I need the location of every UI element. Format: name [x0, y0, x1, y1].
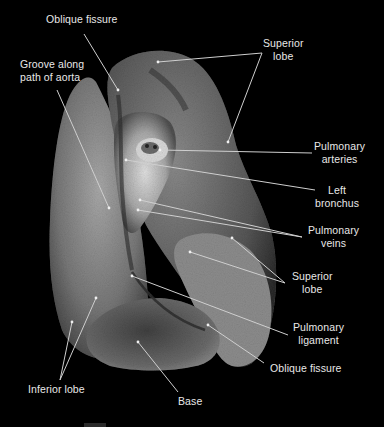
- anatomy-figure: Oblique fissure Groove along path of aor…: [0, 0, 384, 427]
- label-pulmonary-arteries: Pulmonary arteries: [314, 140, 365, 165]
- label-groove-along-aorta: Groove along path of aorta: [20, 58, 84, 83]
- label-pulmonary-veins: Pulmonary veins: [308, 224, 359, 249]
- label-left-bronchus: Left bronchus: [315, 184, 359, 209]
- label-inferior-lobe: Inferior lobe: [28, 383, 85, 396]
- label-superior-lobe-bottom: Superior lobe: [292, 270, 333, 295]
- label-pulmonary-ligament: Pulmonary ligament: [293, 321, 344, 346]
- cropped-caption-fragment: [84, 423, 106, 427]
- label-oblique-fissure-bottom: Oblique fissure: [270, 362, 342, 375]
- label-superior-lobe-top: Superior lobe: [263, 37, 304, 62]
- label-oblique-fissure-top: Oblique fissure: [46, 13, 118, 26]
- label-base: Base: [178, 395, 202, 408]
